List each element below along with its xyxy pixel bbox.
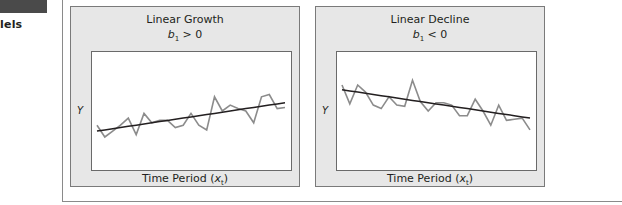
- growth-observed-series-line: [97, 95, 285, 138]
- decline-plot-area: [336, 51, 537, 171]
- decline-chart-panel: Linear Decline b1 < 0 Y Time Period (xt): [315, 6, 545, 187]
- section-header-bar: [0, 0, 47, 13]
- subtitle-var: b: [413, 28, 420, 41]
- decline-chart-svg: [337, 52, 536, 170]
- subtitle-relation: < 0: [424, 28, 447, 41]
- xlabel-text: Time Period (: [142, 172, 215, 185]
- subtitle-relation: > 0: [179, 28, 202, 41]
- xlabel-text: Time Period (: [387, 172, 460, 185]
- decline-x-axis-label: Time Period (xt): [316, 172, 544, 187]
- decline-y-axis-label: Y: [322, 105, 328, 116]
- section-heading-fragment: lels: [0, 18, 22, 31]
- decline-trend-series-line: [342, 90, 530, 118]
- growth-chart-subtitle: b1 > 0: [71, 28, 299, 46]
- decline-observed-series-line: [342, 80, 530, 130]
- decline-chart-title: Linear Decline: [316, 13, 544, 26]
- growth-chart-panel: Linear Growth b1 > 0 Y Time Period (xt): [70, 6, 300, 187]
- decline-chart-subtitle: b1 < 0: [316, 28, 544, 46]
- xlabel-close: ): [224, 172, 228, 185]
- growth-chart-svg: [92, 52, 291, 170]
- xlabel-close: ): [469, 172, 473, 185]
- growth-y-axis-label: Y: [77, 105, 83, 116]
- subtitle-var: b: [168, 28, 175, 41]
- growth-x-axis-label: Time Period (xt): [71, 172, 299, 187]
- growth-trend-series-line: [97, 103, 285, 131]
- growth-chart-title: Linear Growth: [71, 13, 299, 26]
- growth-plot-area: [91, 51, 292, 171]
